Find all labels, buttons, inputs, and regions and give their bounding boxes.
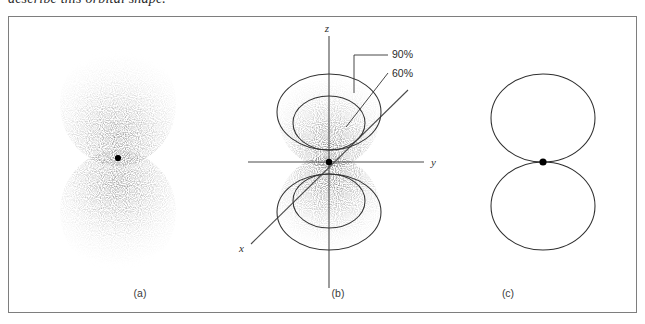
panel-b: z y x 90% 60% [228,16,448,313]
panel-a [8,16,228,313]
panel-c-graphic [448,16,637,313]
nucleus-dot [115,155,121,161]
caption-b: (b) [308,287,368,299]
boundary-surface-lower-lobe [491,162,595,250]
x-axis-label: x [238,242,244,254]
boundary-surface-upper-lobe [491,74,595,162]
figure-page: describe this orbital shape. [0,0,645,324]
panel-c [448,16,637,313]
panel-b-graphic: z y x 90% 60% [228,16,448,313]
y-axis-label: y [430,156,436,168]
panel-a-graphic [8,16,228,313]
electron-cloud-lower-lobe [48,144,188,284]
nucleus-dot [326,159,332,165]
caption-a: (a) [110,287,170,299]
contour-label-90: 90% [392,48,413,60]
caption-c: (c) [478,287,538,299]
contour-label-60: 60% [392,67,413,79]
nucleus-dot [539,158,546,165]
running-text: describe this orbital shape. [8,0,166,7]
z-axis-label: z [324,22,330,34]
